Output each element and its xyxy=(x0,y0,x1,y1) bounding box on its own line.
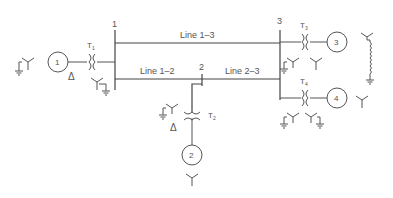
transformer-t3: T 3 xyxy=(300,21,327,50)
svg-text:4: 4 xyxy=(334,94,339,103)
wye-grounded-icon xyxy=(91,78,110,95)
svg-text:1: 1 xyxy=(92,45,95,51)
delta-icon: Δ xyxy=(68,71,75,82)
wye-grounded-icon xyxy=(159,104,178,119)
grounding-reactor-icon xyxy=(361,33,374,84)
svg-text:4: 4 xyxy=(305,81,308,87)
line-2-3: Line 2–3 xyxy=(202,66,280,79)
wye-grounded-icon xyxy=(15,58,34,75)
wye-grounded-icon xyxy=(280,58,299,73)
svg-text:2: 2 xyxy=(189,151,194,160)
generator-3: 3 xyxy=(327,32,347,52)
bus-3-label: 3 xyxy=(277,16,282,26)
power-system-diagram: 1 3 Line 1–3 Line 1–2 Line 2–3 2 1 xyxy=(0,0,393,198)
bus-2: 2 xyxy=(192,62,204,112)
svg-text:3: 3 xyxy=(334,38,339,47)
transformer-t4: T 4 xyxy=(300,77,327,106)
wye-icon xyxy=(310,58,322,70)
transformer-t2: T 2 xyxy=(184,111,216,121)
wye-icon xyxy=(356,96,368,108)
generator-2: 2 xyxy=(182,145,202,165)
line-1-2: Line 1–2 xyxy=(115,66,202,79)
svg-text:1: 1 xyxy=(55,58,60,67)
svg-text:2: 2 xyxy=(213,115,216,121)
transformer-t1: T 1 xyxy=(87,41,115,70)
line-1-2-label: Line 1–2 xyxy=(140,66,175,76)
line-1-3-label: Line 1–3 xyxy=(180,30,215,40)
bus-1-label: 1 xyxy=(112,19,117,29)
line-1-3: Line 1–3 xyxy=(115,30,280,43)
generator-1: 1 xyxy=(48,52,68,72)
wye-grounded-icon xyxy=(280,113,299,128)
line-2-3-label: Line 2–3 xyxy=(225,66,260,76)
wye-icon xyxy=(186,174,198,186)
delta-icon: Δ xyxy=(170,122,177,133)
wye-grounded-icon xyxy=(305,113,324,128)
bus-2-label: 2 xyxy=(199,62,204,72)
generator-4: 4 xyxy=(327,88,347,108)
svg-text:3: 3 xyxy=(305,25,308,31)
bus-3: 3 xyxy=(277,16,282,100)
